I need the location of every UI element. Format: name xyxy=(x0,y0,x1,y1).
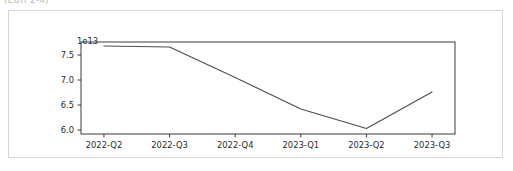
y-axis-offset-label: 1e13 xyxy=(77,36,98,46)
figure-card: 1e13 7.57.06.56.0 2022-Q22022-Q32022-Q42… xyxy=(8,10,503,158)
y-tick-label: 6.5 xyxy=(61,100,74,110)
axes-spines xyxy=(81,42,455,134)
y-axis: 7.57.06.56.0 xyxy=(61,50,81,135)
data-series-group xyxy=(104,46,432,129)
x-tick-label: 2022-Q3 xyxy=(151,140,188,150)
x-tick-label: 2022-Q2 xyxy=(86,140,123,150)
clipped-caption-text: (EUR 2-4) xyxy=(4,0,49,5)
y-tick-label: 7.5 xyxy=(61,50,74,60)
axes-frame xyxy=(81,42,455,134)
x-tick-label: 2022-Q4 xyxy=(217,140,254,150)
x-axis: 2022-Q22022-Q32022-Q42023-Q12023-Q22023-… xyxy=(86,134,451,150)
x-tick-label: 2023-Q3 xyxy=(414,140,451,150)
y-tick-label: 6.0 xyxy=(61,125,74,135)
series-line-1 xyxy=(104,46,432,129)
chart-plot-area: 1e13 7.57.06.56.0 2022-Q22022-Q32022-Q42… xyxy=(9,11,504,159)
x-tick-label: 2023-Q1 xyxy=(283,140,320,150)
x-tick-label: 2023-Q2 xyxy=(348,140,385,150)
line-chart: 1e13 7.57.06.56.0 2022-Q22022-Q32022-Q42… xyxy=(9,11,504,159)
y-tick-label: 7.0 xyxy=(61,75,74,85)
